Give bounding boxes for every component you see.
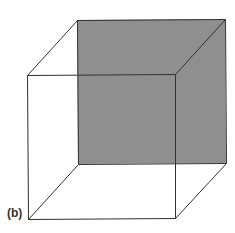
cube-figure: (b) [0,0,235,233]
cube-edge [28,21,78,76]
cube-edge [29,219,176,220]
cube-diagram [0,0,235,233]
figure-label: (b) [7,207,22,219]
cube-edge [29,165,79,220]
cube-edge [176,164,227,219]
cube-edge [28,76,29,220]
shaded-back-face [77,19,226,164]
